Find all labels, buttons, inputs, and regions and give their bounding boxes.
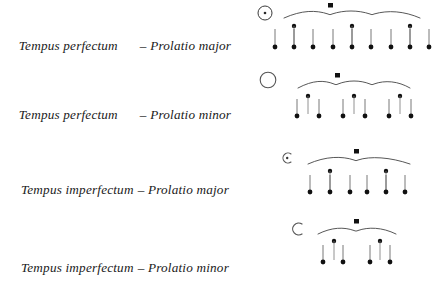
- mensuration-tree: [288, 67, 438, 123]
- circle-sign: [258, 70, 278, 90]
- row-label-lead: Tempus imperfectum: [21, 182, 134, 197]
- row-label-lead: Tempus imperfectum: [21, 260, 134, 275]
- row-label: Tempus perfectum– Prolatio major: [0, 38, 250, 54]
- c-with-dot-sign: [280, 151, 294, 165]
- row-label-tail: Prolatio major: [148, 182, 229, 197]
- mensuration-tree: [300, 145, 440, 201]
- mensuration-tree: [272, 0, 444, 56]
- row-label-dash: –: [138, 182, 145, 197]
- diagram-row: Tempus imperfectum– Prolatio major: [0, 145, 444, 218]
- row-label-dash: –: [138, 260, 145, 275]
- row-label-dash: –: [140, 107, 147, 122]
- row-label-tail: Prolatio major: [150, 38, 231, 53]
- mensural-notation-diagram: Tempus perfectum– Prolatio major: [0, 0, 444, 293]
- c-sign: [290, 220, 306, 238]
- diagram-row: Tempus imperfectum– Prolatio minor: [0, 215, 444, 288]
- diagram-row: Tempus perfectum– Prolatio major: [0, 0, 444, 73]
- row-label-tail: Prolatio minor: [150, 107, 231, 122]
- row-label: Tempus imperfectum– Prolatio major: [0, 182, 250, 198]
- row-label: Tempus perfectum– Prolatio minor: [0, 107, 250, 123]
- mensuration-tree: [310, 215, 430, 271]
- row-label-tail: Prolatio minor: [148, 260, 229, 275]
- row-label-lead: Tempus perfectum: [19, 38, 118, 53]
- row-label-lead: Tempus perfectum: [19, 107, 118, 122]
- row-label-dash: –: [140, 38, 147, 53]
- diagram-row: Tempus perfectum– Prolatio minor: [0, 70, 444, 143]
- row-label: Tempus imperfectum– Prolatio minor: [0, 260, 250, 276]
